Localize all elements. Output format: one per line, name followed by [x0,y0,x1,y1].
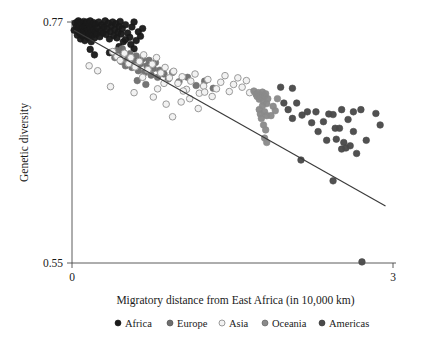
data-point [139,25,146,32]
data-point [179,73,186,80]
data-point [353,150,360,157]
data-point [140,52,147,59]
data-point [178,99,185,106]
data-point [313,109,320,116]
data-point [336,125,343,132]
data-point [131,19,138,26]
legend-label: Europe [177,318,208,329]
data-point [330,111,337,118]
data-point [373,110,380,117]
data-point [195,105,202,112]
data-point [201,89,208,96]
data-point [304,109,311,116]
data-point [358,106,365,113]
x-axis-title: Migratory distance from East Africa (in … [116,294,354,307]
legend-marker-icon [262,320,268,326]
chart-canvas: 0.77 0.55 0 3 Genetic diversity Migrator… [0,0,427,345]
legend-label: Asia [229,318,249,329]
data-point [150,94,157,101]
legend-marker-icon [319,320,325,326]
data-point [239,84,246,91]
data-point [320,118,327,125]
data-point [163,101,170,108]
data-point [274,95,281,102]
data-point [121,50,128,57]
data-point [162,64,169,71]
data-point [289,85,296,92]
data-point [91,52,98,59]
legend-label: Oceania [272,318,307,329]
y-axis-title: Genetic diversity [18,103,31,182]
data-point [149,61,156,68]
data-point [289,115,296,122]
data-point [359,259,366,266]
data-point [308,119,315,126]
data-point [209,93,216,100]
data-point [139,74,146,81]
y-axis-tick-label-top: 0.77 [43,16,63,28]
data-point [143,81,150,88]
data-point [200,83,207,90]
data-point [222,72,229,79]
data-point [166,75,173,82]
data-point [293,100,300,107]
legend-marker-icon [115,320,121,326]
legend-marker-icon [167,320,173,326]
data-point [131,89,138,96]
y-axis-tick-label-bottom: 0.55 [43,257,63,269]
legend-label: Americas [329,318,369,329]
data-point [192,71,199,78]
data-point [243,77,250,84]
data-point [169,113,176,120]
data-point [268,112,275,119]
data-point [128,54,135,61]
data-point [347,142,354,149]
data-point [285,106,292,113]
data-point [86,63,93,70]
data-point [87,46,94,53]
data-point [281,100,288,107]
data-point [230,81,237,88]
data-point [153,54,160,61]
data-point [330,178,337,185]
x-axis-tick-label-left: 0 [69,271,75,283]
legend-label: Africa [125,318,152,329]
data-point [323,137,330,144]
data-point [345,116,352,123]
data-point [187,78,194,85]
data-point [315,128,322,135]
data-point [175,80,182,87]
data-point [170,68,177,75]
data-point [205,76,212,83]
data-point [122,36,129,43]
data-point [154,86,161,93]
x-axis-tick-label-right: 3 [390,271,396,283]
data-point [350,109,357,116]
data-point [217,79,224,86]
data-point [136,58,143,65]
data-point [137,33,144,40]
data-point [333,136,340,143]
data-point [363,137,370,144]
data-point [262,127,269,134]
data-point [226,88,233,95]
data-point [265,95,272,102]
data-point [338,106,345,113]
data-point [94,67,101,74]
data-point [259,103,266,110]
data-point [350,128,357,135]
legend-marker-icon [219,320,225,326]
data-point [277,84,284,91]
data-point [122,21,129,28]
data-point [377,122,384,129]
data-point [235,75,242,82]
data-point [213,86,220,93]
data-point [107,83,114,90]
genetic-diversity-scatter-figure: 0.77 0.55 0 3 Genetic diversity Migrator… [0,0,427,345]
